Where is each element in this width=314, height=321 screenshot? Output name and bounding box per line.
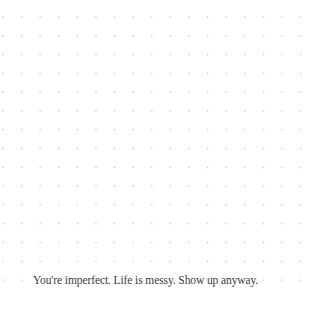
dot-grid-background bbox=[0, 0, 314, 290]
motivational-quote: You're imperfect. Life is messy. Show up… bbox=[33, 272, 258, 288]
dotted-paper-canvas: You're imperfect. Life is messy. Show up… bbox=[0, 0, 314, 321]
